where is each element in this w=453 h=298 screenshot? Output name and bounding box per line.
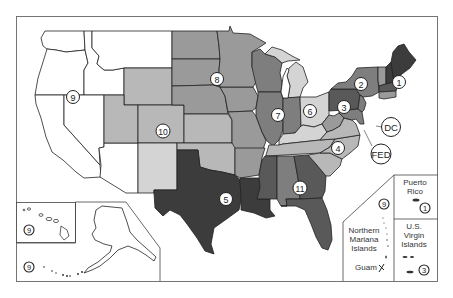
alaska-marker-9[interactable]: 9 <box>24 262 34 272</box>
region-marker-7[interactable]: 7 <box>272 109 285 122</box>
region-marker-5[interactable]: 5 <box>220 193 233 206</box>
svg-text:9: 9 <box>27 263 31 272</box>
svg-text:4: 4 <box>335 144 340 154</box>
svg-text:5: 5 <box>223 195 228 205</box>
mariana-label-3: Islands <box>351 244 376 253</box>
svg-text:11: 11 <box>296 184 305 194</box>
svg-text:6: 6 <box>307 107 312 117</box>
svg-text:8: 8 <box>214 75 219 85</box>
mariana-label-1: Northern <box>348 226 379 235</box>
state-wyoming <box>124 68 172 105</box>
state-kansas <box>184 114 232 143</box>
svg-text:3: 3 <box>341 103 346 113</box>
svg-text:1: 1 <box>396 78 401 88</box>
region-marker-fed[interactable]: FED <box>371 144 391 164</box>
usvi-label-3: Islands <box>401 240 426 249</box>
svg-text:7: 7 <box>275 111 280 121</box>
state-north-dakota <box>172 31 220 59</box>
region-marker-dc[interactable]: DC <box>382 118 401 137</box>
region-marker-6[interactable]: 6 <box>304 105 317 118</box>
region-marker-11[interactable]: 11 <box>293 181 307 195</box>
puerto-rico-label-2: Rico <box>407 187 424 196</box>
svg-text:10: 10 <box>158 127 168 137</box>
mariana-label-2: Mariana <box>350 235 379 244</box>
region-marker-3[interactable]: 3 <box>338 101 351 114</box>
state-new-mexico <box>138 143 177 193</box>
state-connecticut-ri <box>379 91 396 99</box>
svg-text:DC: DC <box>384 122 398 133</box>
usvi-label-2: Virgin <box>404 231 424 240</box>
puerto-rico-island <box>413 198 420 201</box>
hawaii-marker-9[interactable]: 9 <box>24 225 34 235</box>
puerto-rico-marker-1[interactable]: 1 <box>420 203 430 213</box>
svg-text:1: 1 <box>423 204 427 213</box>
guam-label: Guam <box>355 263 377 272</box>
svg-text:9: 9 <box>27 226 31 235</box>
svg-text:3: 3 <box>422 266 426 275</box>
state-vermont <box>378 67 386 86</box>
svg-text:9: 9 <box>70 93 75 103</box>
mariana-marker-9[interactable]: 9 <box>379 199 389 209</box>
puerto-rico-label-1: Puerto <box>403 178 427 187</box>
region-marker-2[interactable]: 2 <box>355 78 368 91</box>
epa-regions-map: Puerto Rico U.S. Virgin Islands Northern… <box>0 0 453 298</box>
region-marker-9[interactable]: 9 <box>67 91 80 104</box>
usvi-marker-3[interactable]: 3 <box>419 265 429 275</box>
usvi-label-1: U.S. <box>406 222 422 231</box>
svg-text:2: 2 <box>358 80 363 90</box>
state-indiana <box>283 97 301 134</box>
svg-text:9: 9 <box>382 200 386 209</box>
svg-text:FED: FED <box>372 149 391 160</box>
region-marker-10[interactable]: 10 <box>156 124 170 138</box>
state-montana <box>92 31 172 70</box>
region-marker-4[interactable]: 4 <box>332 142 345 155</box>
region-marker-8[interactable]: 8 <box>211 73 224 86</box>
region-marker-1[interactable]: 1 <box>393 76 406 89</box>
